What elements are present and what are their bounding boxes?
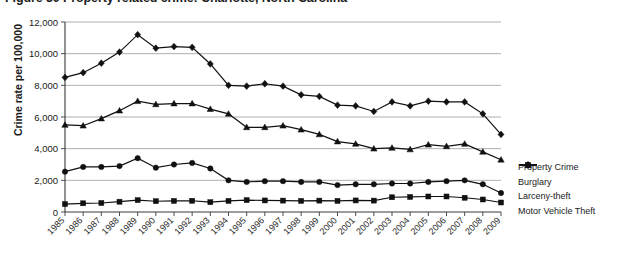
x-axis-tick-label: 2009 [481,215,502,236]
data-point [135,155,140,160]
y-axis-tick-label: 8,000 [34,80,58,91]
series-larceny-theft [62,98,504,162]
data-point [80,164,85,169]
data-point [171,162,176,167]
data-point [226,178,231,183]
x-axis-tick-label: 1994 [209,215,230,236]
y-axis-tick-label: 6,000 [34,112,58,123]
data-point [462,99,468,106]
series-line [65,101,501,160]
data-point [426,194,431,199]
data-point [462,178,467,183]
data-point [280,178,285,183]
x-axis-tick-label: 2003 [372,215,393,236]
legend-label: Burglary [518,177,552,187]
data-point [371,182,376,187]
data-point [480,197,485,202]
legend-item-motor-vehicle-theft[interactable]: Motor Vehicle Theft [518,204,595,219]
data-point [62,169,67,174]
data-point [99,200,104,205]
data-point [208,200,213,205]
data-point [81,201,86,206]
data-point [298,179,303,184]
data-point [153,165,158,170]
data-point [316,93,322,100]
y-axis-tick-label: 12,000 [29,17,58,28]
legend-item-larceny-theft[interactable]: Larceny-theft [518,189,595,204]
x-axis-tick-label: 1993 [191,215,212,236]
chart-legend: Property CrimeBurglaryLarceny-theftMotor… [518,160,595,218]
x-axis-tick-label: 1992 [172,215,193,236]
data-point [407,103,413,110]
data-point [371,198,376,203]
x-axis-tick-label: 1996 [245,215,266,236]
x-axis-tick-label: 1986 [63,215,84,236]
data-point [480,182,485,187]
data-point [353,182,358,187]
y-axis-tick-label: 0 [53,207,58,218]
x-axis-tick-label: 2007 [445,215,466,236]
data-point [426,179,431,184]
data-point [444,194,449,199]
data-point [390,195,395,200]
data-point [80,69,86,76]
data-point [408,194,413,199]
data-point [116,107,122,113]
y-axis-tick-label: 4,000 [34,143,58,154]
data-point [98,60,104,67]
x-axis-tick-label: 2004 [390,215,411,236]
data-point [407,181,412,186]
x-axis-tick-label: 1991 [154,215,175,236]
y-axis-tick-label: 2,000 [34,175,58,186]
data-point [244,198,249,203]
x-axis-tick-label: 1985 [45,215,66,236]
series-burglary [62,155,503,195]
data-point [171,43,177,50]
legend-item-burglary[interactable]: Burglary [518,175,595,190]
data-point [134,98,140,104]
data-point [244,179,249,184]
data-point [208,166,213,171]
x-axis-tick-label: 1987 [82,215,103,236]
data-point [135,198,140,203]
data-point [353,198,358,203]
x-axis-tick-label: 1998 [281,215,302,236]
data-point [444,99,450,106]
data-point [153,45,159,52]
data-point [353,103,359,110]
data-point [117,163,122,168]
chart-plot-area: 02,0004,0006,0008,00010,00012,0001985198… [0,0,625,259]
x-axis-tick-label: 1990 [136,215,157,236]
data-point [63,202,68,207]
data-point [335,102,341,109]
y-axis-tick-label: 10,000 [29,48,58,59]
x-axis-tick-label: 2006 [427,215,448,236]
data-point [99,164,104,169]
series-property-crime [62,31,504,138]
data-point [317,198,322,203]
data-point [317,179,322,184]
data-point [444,178,449,183]
data-point [499,200,504,205]
data-point [62,74,68,81]
data-point [461,141,467,147]
figure-root: Figure 30 Property related crime: Charlo… [0,0,625,259]
legend-label: Larceny-theft [518,191,571,201]
data-point [280,83,286,90]
legend-label: Motor Vehicle Theft [518,206,595,216]
data-point [244,83,250,90]
data-point [153,199,158,204]
data-point [389,99,395,106]
data-point [335,182,340,187]
data-point [189,160,194,165]
series-motor-vehicle-theft [63,194,504,207]
data-point [262,198,267,203]
x-axis-tick-label: 1995 [227,215,248,236]
data-point [298,91,304,98]
x-axis-tick-label: 1997 [263,215,284,236]
legend-marker-square-icon [518,160,538,170]
data-point [190,198,195,203]
data-point [371,108,377,115]
data-point [498,190,503,195]
data-point [262,80,268,87]
